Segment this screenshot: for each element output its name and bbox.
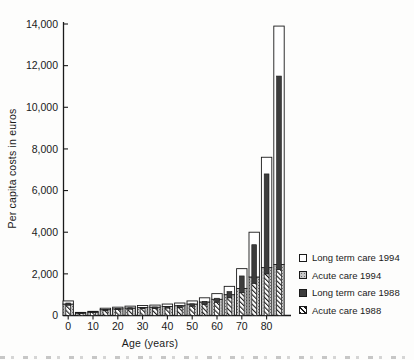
bar-longterm-1988-60-64 — [215, 298, 220, 302]
per-capita-cost-chart: 02,0004,0006,0008,00010,00012,00014,0000… — [0, 0, 414, 360]
white-swatch-icon — [299, 254, 307, 262]
bar-longterm-1988-45-49 — [177, 306, 182, 308]
bar-longterm-1988-20-24 — [115, 309, 120, 310]
bar-acute-1988-45-49 — [177, 307, 182, 315]
y-tick-label: 14,000 — [26, 18, 58, 30]
bar-acute-1988-55-59 — [202, 304, 207, 315]
legend: Long term care 1994Acute care 1994Long t… — [299, 249, 400, 319]
bar-acute-1988-75-79 — [252, 283, 257, 315]
cropped-text-remnant — [0, 356, 414, 359]
bar-acute-1988-85+ — [277, 270, 282, 316]
y-tick-label: 6,000 — [32, 184, 58, 196]
legend-entry: Long term care 1994 — [299, 249, 400, 267]
x-tick-label: 20 — [112, 320, 124, 332]
x-tick-label: 40 — [162, 320, 174, 332]
bar-acute-1988-20-24 — [115, 310, 120, 316]
legend-label: Long term care 1988 — [312, 287, 400, 298]
y-tick-label: 0 — [52, 309, 58, 321]
hatch-swatch-icon — [299, 306, 307, 314]
bar-acute-1988-10-14 — [91, 313, 96, 316]
bar-groups — [63, 26, 284, 315]
bar-longterm-1988-70-74 — [239, 276, 244, 293]
bar-acute-1988-65-69 — [227, 298, 232, 316]
legend-label: Acute care 1994 — [312, 270, 381, 281]
y-axis-label: Per capita costs in euros — [6, 59, 21, 279]
x-tick-label: 60 — [211, 320, 223, 332]
legend-label: Acute care 1988 — [312, 305, 381, 316]
bar-longterm-1988-65-69 — [227, 292, 232, 298]
x-tick-label: 70 — [236, 320, 248, 332]
bar-acute-1988-70-74 — [239, 293, 244, 316]
legend-label: Long term care 1994 — [312, 252, 400, 263]
legend-entry: Acute care 1988 — [299, 302, 400, 320]
bar-longterm-1988-35-39 — [153, 307, 158, 308]
bar-longterm-1988-30-34 — [140, 307, 145, 308]
bar-acute-1988-0-4 — [66, 305, 71, 315]
dark-swatch-icon — [299, 289, 307, 297]
bar-longterm-1988-50-54 — [190, 304, 195, 306]
bar-acute-1988-25-29 — [128, 309, 133, 315]
bar-acute-1988-80-84 — [264, 274, 269, 316]
bar-longterm-1988-0-4 — [66, 303, 71, 305]
y-tick-label: 2,000 — [32, 268, 58, 280]
y-tick-label: 10,000 — [26, 101, 58, 113]
bar-acute-1988-40-44 — [165, 308, 170, 315]
bar-longterm-1988-85+ — [277, 76, 282, 270]
legend-entry: Long term care 1988 — [299, 284, 400, 302]
bar-longterm-1988-75-79 — [252, 245, 257, 284]
bar-longterm-1988-80-84 — [264, 174, 269, 274]
x-tick-label: 30 — [137, 320, 149, 332]
dots-swatch-icon — [299, 271, 307, 279]
bar-acute-1988-35-39 — [153, 308, 158, 315]
legend-entry: Acute care 1994 — [299, 267, 400, 285]
y-tick-label: 12,000 — [26, 59, 58, 71]
y-tick-label: 8,000 — [32, 143, 58, 155]
bar-acute-1988-15-19 — [103, 311, 108, 316]
bar-longterm-1988-40-44 — [165, 306, 170, 308]
x-tick-label: 10 — [87, 320, 99, 332]
bar-longterm-1988-15-19 — [103, 310, 108, 311]
x-tick-label: 50 — [186, 320, 198, 332]
bar-acute-1988-30-34 — [140, 309, 145, 316]
x-tick-label: 0 — [65, 320, 71, 332]
bar-acute-1988-5-9 — [78, 313, 83, 315]
bar-longterm-1988-55-59 — [202, 301, 207, 304]
bar-longterm-1988-25-29 — [128, 308, 133, 309]
bar-acute-1988-60-64 — [215, 302, 220, 315]
x-tick-label: 80 — [261, 320, 273, 332]
x-axis-label: Age (years) — [70, 337, 230, 349]
y-tick-label: 4,000 — [32, 226, 58, 238]
bar-acute-1988-50-54 — [190, 306, 195, 315]
